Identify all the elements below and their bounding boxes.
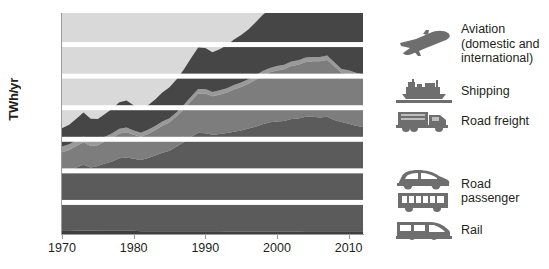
legend-item-label: Aviation(domestic andinternational) xyxy=(458,22,540,66)
stacked-area-canvas xyxy=(62,13,363,234)
cargo-ship-icon xyxy=(396,78,458,104)
x-axis-tick-label: 2000 xyxy=(263,241,291,255)
x-axis-tick xyxy=(349,235,350,239)
x-axis-tick xyxy=(134,235,135,239)
legend-item-label: Rail xyxy=(458,223,483,238)
car-and-bus-icon xyxy=(396,168,458,214)
plot-area xyxy=(62,13,363,234)
legend-item-train: Rail xyxy=(396,218,549,242)
legend-item-cargo-ship: Shipping xyxy=(396,78,549,104)
airplane-icon xyxy=(396,29,458,59)
stacked-area-svg xyxy=(62,13,363,234)
gridline-band xyxy=(62,168,363,173)
truck-icon xyxy=(396,108,458,134)
gridline-band xyxy=(62,137,363,142)
x-axis-line xyxy=(61,234,364,235)
truck-icon xyxy=(396,108,452,134)
legend-item-car-and-bus: Road passenger xyxy=(396,168,549,214)
y-axis-tick-labels: 7006005004003002001000 xyxy=(0,0,56,269)
legend-item-label: Road passenger xyxy=(458,177,549,206)
x-axis-tick xyxy=(205,235,206,239)
gridline-band xyxy=(62,74,363,79)
x-axis-tick-label: 2010 xyxy=(335,241,363,255)
x-axis-tick xyxy=(62,235,63,239)
legend-item-label: Shipping xyxy=(458,84,510,99)
legend-item-label: Road freight xyxy=(458,114,529,129)
x-axis-tick xyxy=(277,235,278,239)
legend-item-airplane: Aviation(domestic andinternational) xyxy=(396,22,549,66)
legend-item-truck: Road freight xyxy=(396,108,549,134)
chart-figure: TWh/yr 7006005004003002001000 1970198019… xyxy=(0,0,549,269)
train-icon xyxy=(396,218,452,242)
x-axis-tick-label: 1980 xyxy=(120,241,148,255)
x-axis-tick-label: 1990 xyxy=(191,241,219,255)
airplane-icon xyxy=(396,29,452,59)
gridline-band xyxy=(62,105,363,110)
gridline-band xyxy=(62,42,363,47)
train-icon xyxy=(396,218,458,242)
gridline-band xyxy=(62,200,363,205)
y-axis-line xyxy=(61,13,62,235)
cargo-ship-icon xyxy=(396,78,452,104)
chart-legend: Aviation(domestic andinternational) Ship… xyxy=(396,0,549,269)
car-and-bus-icon xyxy=(396,168,452,214)
x-axis-tick-label: 1970 xyxy=(48,241,76,255)
